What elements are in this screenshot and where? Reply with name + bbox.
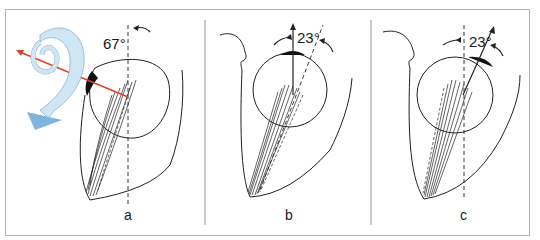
panel-label-b: b bbox=[285, 208, 293, 222]
panel-label-a: a bbox=[124, 208, 132, 222]
lid-curve-c bbox=[383, 31, 520, 199]
angle-label-a: 67° bbox=[103, 36, 126, 51]
cornea-c bbox=[468, 57, 493, 67]
spiral-ribbon-arrow-icon bbox=[27, 28, 84, 130]
angle-label-b: 23° bbox=[297, 30, 320, 45]
panel-a bbox=[16, 25, 183, 205]
panel-b bbox=[220, 23, 352, 197]
eye-muscle-diagram bbox=[0, 0, 540, 240]
panel-c bbox=[383, 25, 520, 200]
muscle-fibers-c bbox=[423, 80, 472, 197]
panel-label-c: c bbox=[460, 208, 467, 222]
angle-label-c: 23° bbox=[469, 34, 492, 49]
orbit-outline-a bbox=[80, 70, 183, 200]
muscle-fibers-b bbox=[248, 85, 303, 195]
globe-c bbox=[417, 57, 493, 133]
lid-curve-b bbox=[220, 34, 352, 197]
